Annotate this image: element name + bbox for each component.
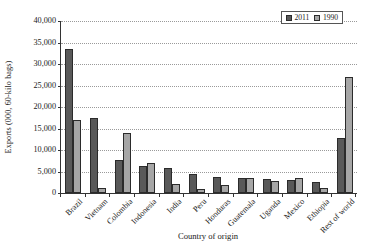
y-axis-tick-label: 0 (21, 189, 56, 197)
y-axis-tick-label: 10,000 (21, 146, 56, 154)
bar-chart-figure: Exports (000, 60-kilo bags) 40,00035,000… (0, 0, 379, 249)
bar-1990 (123, 133, 131, 193)
y-axis-tick-mark (58, 129, 61, 130)
bar-group (135, 21, 160, 193)
bar-group (110, 21, 135, 193)
bar-2011 (337, 138, 345, 193)
y-axis-tick-mark (58, 172, 61, 173)
bar-group (283, 21, 308, 193)
y-axis-tick-label: 15,000 (21, 125, 56, 133)
bar-1990 (271, 181, 279, 193)
bar-2011 (312, 182, 320, 193)
bar-group (209, 21, 234, 193)
legend-label: 1990 (323, 14, 338, 22)
plot-area (60, 21, 357, 194)
bar-group (308, 21, 333, 193)
bar-group (332, 21, 357, 193)
y-axis-tick-label: 25,000 (21, 82, 56, 90)
bars-layer (61, 21, 357, 193)
bar-2011 (189, 174, 197, 193)
legend-entry: 2011 (286, 14, 309, 22)
legend-entry: 1990 (314, 14, 338, 22)
x-axis-title: Country of origin (60, 231, 356, 241)
bar-2011 (139, 166, 147, 193)
bar-1990 (295, 178, 303, 193)
bar-2011 (263, 179, 271, 193)
y-axis-tick-label: 30,000 (21, 60, 56, 68)
bar-1990 (73, 120, 81, 193)
y-axis-tick-label: 35,000 (21, 39, 56, 47)
bar-1990 (221, 185, 229, 193)
y-axis-tick-label: 40,000 (21, 17, 56, 25)
bar-1990 (172, 184, 180, 193)
chart-legend: 20111990 (281, 11, 343, 24)
legend-swatch-icon (314, 15, 320, 21)
y-axis-tick-mark (58, 150, 61, 151)
bar-1990 (147, 163, 155, 193)
bar-2011 (65, 49, 73, 193)
x-axis-category-label: Brazil (0, 197, 85, 249)
bar-2011 (164, 168, 172, 193)
y-axis-tick-mark (58, 64, 61, 65)
bar-group (160, 21, 185, 193)
bar-group (86, 21, 111, 193)
bar-2011 (238, 178, 246, 193)
bar-2011 (213, 177, 221, 193)
bar-group (184, 21, 209, 193)
y-axis-tick-mark (58, 86, 61, 87)
y-axis-tick-mark (58, 107, 61, 108)
y-axis-tick-label: 5,000 (21, 168, 56, 176)
y-axis-tick-labels: 40,00035,00030,00025,00020,00015,00010,0… (21, 14, 56, 200)
y-axis-tick-label: 20,000 (21, 103, 56, 111)
bar-1990 (345, 77, 353, 193)
bar-2011 (90, 118, 98, 193)
legend-label: 2011 (295, 14, 310, 22)
bar-1990 (246, 178, 254, 193)
bar-2011 (115, 160, 123, 193)
y-axis-tick-mark (58, 21, 61, 22)
bar-group (234, 21, 259, 193)
bar-group (258, 21, 283, 193)
bar-2011 (287, 180, 295, 193)
legend-swatch-icon (286, 15, 292, 21)
y-axis-title: Exports (000, 60-kilo bags) (2, 21, 16, 193)
y-axis-tick-mark (58, 43, 61, 44)
bar-group (61, 21, 86, 193)
